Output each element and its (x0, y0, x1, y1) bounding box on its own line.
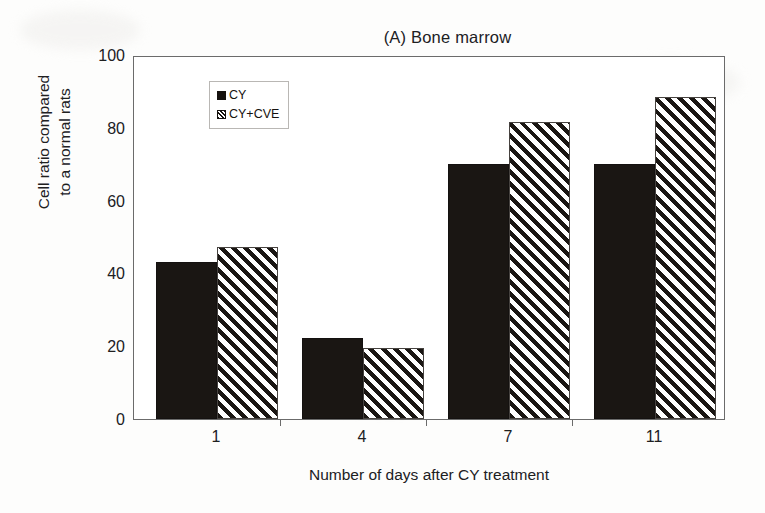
bar-cycve-11 (655, 97, 716, 419)
y-tick-80: 80 (0, 121, 125, 137)
solid-square-icon (217, 91, 226, 100)
bar-cycve-1 (217, 247, 278, 419)
figure-panel: (A) Bone marrow Cell ratio compared to a… (0, 0, 765, 513)
x-tick-7: 7 (504, 428, 513, 446)
bar-cy-11 (594, 164, 655, 419)
x-tick-mark (426, 419, 427, 426)
x-tick-4: 4 (358, 428, 367, 446)
bar-cy-1 (156, 262, 217, 419)
y-tick-60: 60 (0, 194, 125, 210)
chart-title: (A) Bone marrow (0, 28, 765, 47)
legend-item-cy: CY (217, 87, 279, 103)
legend-label-cy: CY (229, 87, 246, 103)
x-tick-mark (280, 419, 281, 426)
x-tick-11: 11 (646, 428, 663, 446)
bar-cy-4 (302, 338, 363, 419)
plot-area: CY CY+CVE (133, 56, 725, 420)
x-tick-1: 1 (212, 428, 221, 446)
y-tick-40: 40 (0, 266, 125, 282)
x-axis-tick-labels: 1 4 7 11 (133, 428, 725, 454)
hatched-square-icon (217, 110, 226, 119)
legend-label-cycve: CY+CVE (229, 106, 279, 122)
chart-legend: CY CY+CVE (209, 81, 289, 129)
bar-cycve-4 (363, 348, 424, 419)
y-tick-0: 0 (0, 412, 125, 428)
x-tick-mark (572, 419, 573, 426)
x-axis-title: Number of days after CY treatment (133, 466, 725, 484)
y-tick-100: 100 (0, 48, 125, 64)
y-axis-tick-labels: 0 20 40 60 80 100 (0, 56, 125, 420)
bar-cycve-7 (509, 122, 570, 419)
y-tick-20: 20 (0, 339, 125, 355)
legend-item-cycve: CY+CVE (217, 106, 279, 122)
bar-cy-7 (448, 164, 509, 419)
